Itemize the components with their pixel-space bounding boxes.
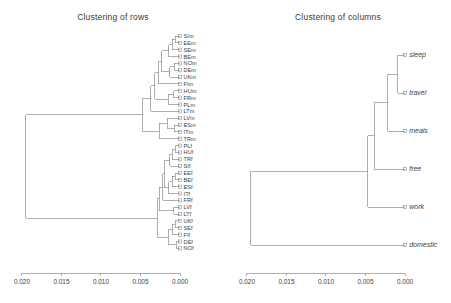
leaf-label: meals (409, 127, 428, 134)
leaf-label: travel (409, 89, 427, 96)
leaf-label: PLf (184, 143, 193, 149)
leaf-label: UKm (184, 74, 197, 80)
leaf-label: ESf (184, 184, 193, 190)
axis-tick-label: 0.010 (93, 278, 109, 285)
leaf-label: EEf (184, 170, 193, 176)
axis-tick-label: 0.000 (172, 278, 188, 285)
axis-tick-label: 0.005 (132, 278, 148, 285)
columns-dendrogram-plot: sleeptravelmealsfreeworkdomestic0.0200.0… (225, 0, 451, 303)
leaf-label: NOf (184, 245, 194, 251)
leaf-label: domestic (409, 241, 438, 248)
leaf-label: BEf (184, 177, 193, 183)
leaf-label: PLm (184, 102, 196, 108)
leaf-label: FRf (184, 197, 193, 203)
leaf-label: ITf (184, 191, 191, 197)
leaf-label: sleep (409, 51, 426, 59)
leaf-label: NOm (184, 60, 197, 66)
leaf-label: ITm (184, 129, 194, 135)
axis-tick-label: 0.000 (397, 278, 413, 285)
axis-tick-label: 0.010 (318, 278, 334, 285)
rows-dendrogram-plot: SImEEmSEmBEmNOmDEmUKmFImHUmFRmPLmLTmLVmE… (0, 0, 226, 303)
columns-dendrogram-panel: Clustering of columns sleeptravelmealsfr… (225, 0, 451, 303)
leaf-label: TRm (184, 136, 196, 142)
rows-dendrogram-panel: Clustering of rows SImEEmSEmBEmNOmDEmUKm… (0, 0, 226, 303)
leaf-label: FIm (184, 81, 194, 87)
leaf-label: ESm (184, 122, 196, 128)
axis-tick-label: 0.020 (14, 278, 30, 285)
leaf-label: DEm (184, 67, 197, 73)
axis-tick-label: 0.015 (53, 278, 69, 285)
axis-tick-label: 0.015 (278, 278, 294, 285)
leaf-label: HUf (184, 149, 194, 155)
leaf-label: DEf (184, 239, 194, 245)
leaf-label: BEm (184, 54, 196, 60)
axis-tick-label: 0.005 (357, 278, 373, 285)
leaf-label: SEf (184, 225, 193, 231)
leaf-label: SIm (184, 33, 194, 39)
leaf-label: HUm (184, 88, 197, 94)
leaf-label: SIf (184, 163, 191, 169)
leaf-label: free (409, 165, 421, 172)
leaf-label: UKf (184, 218, 194, 224)
leaf-label: LVm (184, 115, 195, 121)
leaf-label: EEm (184, 40, 196, 46)
leaf-label: SEm (184, 47, 196, 53)
leaf-label: FIf (184, 232, 191, 238)
leaf-label: LTf (184, 211, 192, 217)
axis-tick-label: 0.020 (239, 278, 255, 285)
leaf-label: LTm (184, 108, 195, 114)
leaf-label: work (409, 203, 424, 210)
leaf-label: LVf (184, 204, 192, 210)
leaf-label: FRm (184, 95, 196, 101)
dendrogram-figure: Clustering of rows SImEEmSEmBEmNOmDEmUKm… (0, 0, 451, 303)
leaf-label: TRf (184, 156, 193, 162)
